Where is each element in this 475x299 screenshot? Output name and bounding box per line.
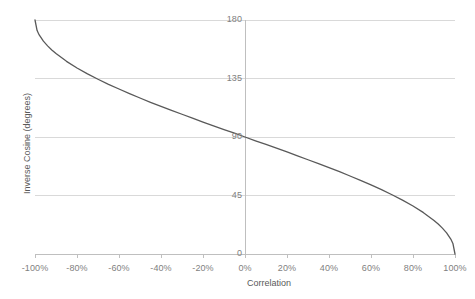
y-axis-title: Inverse Cosine (degrees) [22, 93, 32, 194]
chart-container: 04590135180 -100%-80%-60%-40%-20%0%20%40… [0, 0, 475, 299]
x-tick-marks [35, 254, 455, 258]
y-tick-label: 90 [232, 131, 242, 141]
y-tick-label: 0 [237, 248, 242, 258]
y-tick-label: 180 [227, 14, 242, 24]
x-axis-title: Correlation [209, 278, 329, 288]
y-tick-label: 45 [232, 190, 242, 200]
y-tick-label: 135 [227, 73, 242, 83]
x-tick-label: 100% [425, 263, 475, 273]
